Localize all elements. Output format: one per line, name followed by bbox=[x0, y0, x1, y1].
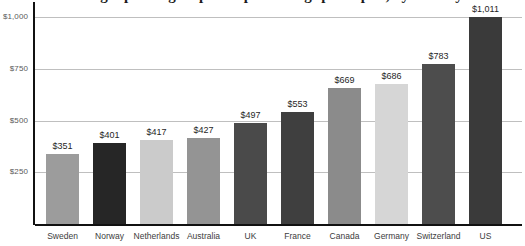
bar-value-label: $427 bbox=[174, 125, 234, 135]
bar-value-label: $351 bbox=[33, 141, 93, 151]
x-axis-line bbox=[35, 224, 522, 226]
y-axis-tick-label: $500 bbox=[0, 116, 28, 125]
bar-chart: Average spending on prescription drugs p… bbox=[0, 0, 525, 246]
bar-sweden[interactable] bbox=[46, 154, 79, 226]
bar-germany[interactable] bbox=[375, 84, 408, 226]
plot-area: $351$401$417$427$497$553$669$686$783$1,0… bbox=[35, 2, 522, 225]
y-axis-tick-label: $1,000 bbox=[0, 12, 28, 21]
bar-norway[interactable] bbox=[93, 143, 126, 226]
y-axis-tick-label: $750 bbox=[0, 64, 28, 73]
bar-value-label: $553 bbox=[268, 99, 328, 109]
bar-value-label: $1,011 bbox=[456, 4, 516, 14]
x-axis-tick-label: US bbox=[451, 231, 521, 241]
y-axis-line bbox=[33, 2, 35, 225]
bar-netherlands[interactable] bbox=[140, 140, 173, 226]
bar-france[interactable] bbox=[281, 112, 314, 226]
bar-value-label: $783 bbox=[409, 51, 469, 61]
bar-us[interactable] bbox=[469, 17, 502, 226]
bar-australia[interactable] bbox=[187, 138, 220, 226]
bar-uk[interactable] bbox=[234, 123, 267, 226]
bar-value-label: $686 bbox=[362, 71, 422, 81]
bar-canada[interactable] bbox=[328, 88, 361, 226]
gridline bbox=[35, 17, 522, 18]
bar-value-label: $497 bbox=[221, 110, 281, 120]
bar-switzerland[interactable] bbox=[422, 64, 455, 226]
y-axis-tick-label: $250 bbox=[0, 167, 28, 176]
